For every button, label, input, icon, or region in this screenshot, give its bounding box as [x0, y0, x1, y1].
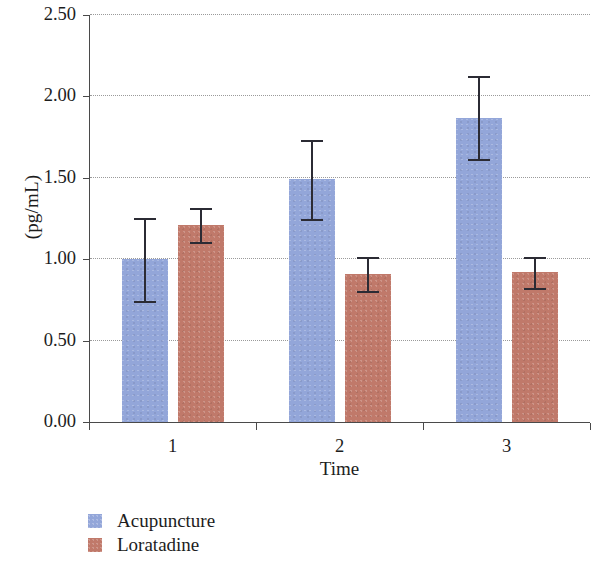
y-axis-tick: 1.00 [83, 259, 90, 260]
error-bar-cap-upper [134, 218, 156, 220]
x-axis-tick-label: 3 [477, 436, 537, 457]
error-bar-cap-upper [357, 257, 379, 259]
legend-item-loratadine: Loratadine [88, 533, 215, 557]
error-bar-cap-upper [301, 140, 323, 142]
y-axis-tick: 2.50 [83, 15, 90, 16]
bar-acupuncture-3 [456, 118, 502, 422]
error-bar-stem [144, 218, 146, 303]
plot-area: 0.000.501.001.502.002.50 123 [89, 16, 590, 423]
error-bar-stem [311, 140, 313, 221]
bar-loratadine-3 [512, 272, 558, 422]
error-bar-cap-upper [468, 76, 490, 78]
y-axis-tick: 2.00 [83, 96, 90, 97]
y-axis-tick: 0.50 [83, 341, 90, 342]
x-axis-tick-label: 1 [143, 436, 203, 457]
x-axis-tick [590, 423, 591, 430]
x-axis-tick-label: 2 [310, 436, 370, 457]
x-axis-title: Time [89, 458, 590, 480]
error-bar-stem [367, 257, 369, 293]
y-axis-line [89, 16, 90, 424]
x-axis-tick [256, 423, 257, 430]
error-bar-cap-upper [524, 257, 546, 259]
bar-loratadine-2 [345, 274, 391, 422]
legend-swatch-loratadine [88, 538, 102, 552]
y-axis-tick-label: 1.50 [44, 167, 76, 188]
error-bar-cap-lower [468, 159, 490, 161]
y-axis-tick-label: 2.50 [44, 4, 76, 25]
legend-item-acupuncture: Acupuncture [88, 509, 215, 533]
y-axis-tick-label: 0.50 [44, 330, 76, 351]
y-axis-tick: 1.50 [83, 178, 90, 179]
x-axis-tick [423, 423, 424, 430]
error-bar-cap-lower [357, 291, 379, 293]
x-axis-line [89, 422, 590, 423]
error-bar-cap-lower [190, 242, 212, 244]
error-bar-cap-lower [301, 219, 323, 221]
y-axis-tick-label: 2.00 [44, 85, 76, 106]
legend-label-acupuncture: Acupuncture [117, 510, 215, 532]
gridline [90, 95, 590, 97]
y-axis-title: (pg/mL) [21, 137, 43, 277]
error-bar-cap-lower [524, 288, 546, 290]
error-bar-stem [534, 257, 536, 290]
y-axis-tick-label: 0.00 [44, 411, 76, 432]
error-bar-stem [200, 208, 202, 244]
legend-swatch-acupuncture [88, 514, 102, 528]
bar-loratadine-1 [178, 225, 224, 422]
bar-chart-figure: (pg/mL) 0.000.501.001.502.002.50 123 Tim… [0, 0, 601, 563]
error-bar-cap-upper [190, 208, 212, 210]
y-axis-tick-label: 1.00 [44, 248, 76, 269]
legend: AcupunctureLoratadine [88, 509, 215, 557]
error-bar-stem [478, 76, 480, 161]
error-bar-cap-lower [134, 301, 156, 303]
x-axis-tick [89, 423, 90, 430]
legend-label-loratadine: Loratadine [117, 534, 199, 556]
gridline [90, 177, 590, 179]
gridline [90, 14, 590, 16]
